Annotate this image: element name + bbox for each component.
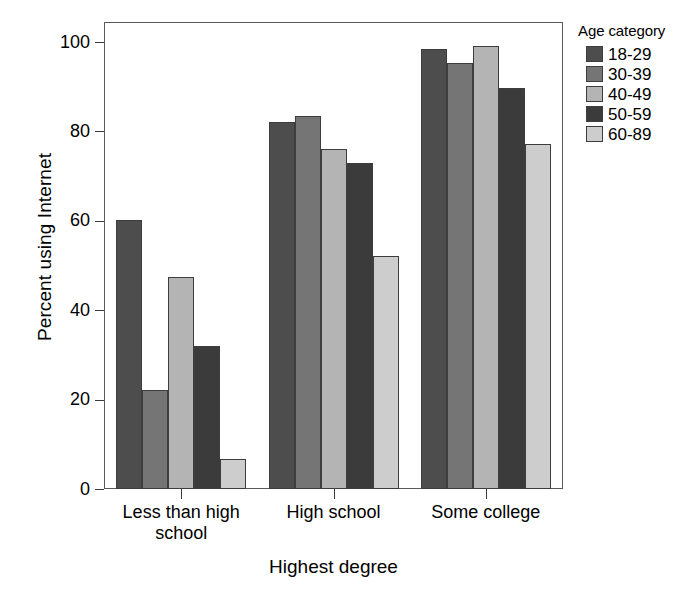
y-axis-tick-mark	[95, 221, 104, 222]
y-axis-tick: 0	[40, 489, 104, 490]
bar	[421, 49, 447, 489]
legend-item: 18-29	[586, 44, 690, 64]
bar	[473, 46, 499, 489]
legend-swatch	[586, 46, 603, 62]
legend-item-label: 30-39	[608, 66, 651, 83]
y-axis-label: Percent using Internet	[34, 37, 56, 457]
bar	[373, 256, 399, 489]
y-axis-tick-label: 20	[70, 390, 95, 408]
y-axis-tick: 80	[40, 131, 104, 132]
x-axis-tick-label-line: Some college	[391, 502, 581, 523]
x-axis-tick-label-line: school	[86, 523, 276, 544]
y-axis-tick-label: 60	[70, 211, 95, 229]
legend-swatch	[586, 66, 603, 82]
bar	[194, 346, 220, 489]
legend-title: Age category	[578, 22, 690, 39]
y-axis-tick-mark	[95, 400, 104, 401]
legend-item: 30-39	[586, 64, 690, 84]
legend-item-label: 40-49	[608, 86, 651, 103]
y-axis-tick-label: 80	[70, 122, 95, 140]
y-axis-tick-mark	[95, 489, 104, 490]
y-axis-tick: 100	[40, 42, 104, 43]
bar	[525, 144, 551, 489]
legend-item: 60-89	[586, 124, 690, 144]
legend-item: 50-59	[586, 104, 690, 124]
bar	[168, 277, 194, 489]
bar	[347, 163, 373, 489]
bars-layer	[105, 23, 562, 489]
legend-item-label: 18-29	[608, 46, 651, 63]
legend-item: 40-49	[586, 84, 690, 104]
bar	[447, 63, 473, 489]
y-axis-tick: 60	[40, 221, 104, 222]
bar	[220, 459, 246, 489]
legend-swatch	[586, 106, 603, 122]
bar	[142, 390, 168, 489]
x-axis-tick-mark	[181, 489, 182, 499]
bar	[269, 122, 295, 489]
legend-items: 18-2930-3940-4950-5960-89	[578, 44, 690, 144]
legend-swatch	[586, 86, 603, 102]
bar-chart: Percent using Internet 020406080100 Less…	[0, 0, 690, 602]
y-axis-tick-label: 40	[70, 301, 95, 319]
bar	[116, 220, 142, 489]
legend-item-label: 50-59	[608, 106, 651, 123]
y-axis-tick-label: 0	[80, 480, 95, 498]
y-axis-tick-mark	[95, 310, 104, 311]
bar	[321, 149, 347, 489]
x-axis-tick-mark	[486, 489, 487, 499]
bar	[499, 88, 525, 489]
y-axis-tick-mark	[95, 42, 104, 43]
legend: Age category 18-2930-3940-4950-5960-89	[578, 22, 690, 144]
x-axis-tick-label: Some college	[391, 502, 581, 523]
x-axis-label: Highest degree	[104, 556, 563, 578]
y-axis-tick-mark	[95, 131, 104, 132]
legend-swatch	[586, 126, 603, 142]
y-axis-tick: 20	[40, 400, 104, 401]
x-axis-tick-mark	[334, 489, 335, 499]
bar	[295, 116, 321, 489]
y-axis-tick-label: 100	[60, 33, 95, 51]
legend-item-label: 60-89	[608, 126, 651, 143]
y-axis-tick: 40	[40, 310, 104, 311]
